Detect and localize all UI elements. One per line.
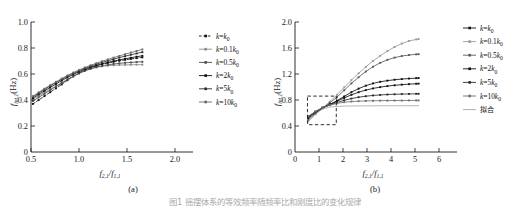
series-marker — [408, 83, 410, 85]
series-marker — [43, 88, 45, 90]
figure-caption-strip: 图1 摇摆体系的等效频率随频率比和刚度比的变化规律 — [0, 196, 530, 209]
series-marker — [415, 53, 417, 55]
panel-b-ytick-label: 2.0 — [282, 18, 292, 27]
series-marker — [95, 66, 97, 68]
series-marker — [90, 64, 92, 66]
series-marker — [118, 62, 120, 64]
panel-b-ytick-label: 1.2 — [282, 70, 292, 79]
series-marker — [365, 100, 367, 102]
legend-label: k=k0 — [480, 24, 494, 34]
legend-marker — [204, 48, 207, 51]
series-marker — [322, 107, 324, 109]
series-marker — [394, 79, 396, 81]
chart-panel-a: 0.51.01.52.000.20.40.60.81.0 k=k0k=0.1k0… — [0, 0, 265, 209]
series-marker — [358, 100, 360, 102]
series-marker — [124, 64, 126, 66]
series-marker — [136, 56, 138, 58]
series-marker — [343, 97, 345, 99]
legend-label: k=5k0 — [216, 84, 233, 94]
series-marker — [401, 93, 403, 95]
legend-label: k=2k0 — [480, 64, 497, 74]
panel-b-xtick-label: 4 — [389, 155, 394, 164]
series-marker — [84, 67, 86, 69]
series-marker — [358, 96, 360, 98]
series-marker — [118, 64, 120, 66]
series-marker — [118, 57, 120, 59]
legend-marker — [204, 35, 207, 38]
legend-label: k=0.1k0 — [480, 37, 503, 47]
panel-a-xtick-label: 1.0 — [74, 155, 84, 164]
series-marker — [358, 91, 360, 93]
panel-b-xtick-label: 5 — [413, 155, 417, 164]
panel-a-xtick-label: 2.0 — [170, 155, 180, 164]
series-line — [308, 94, 418, 117]
panel-a-ytick-label: 0.8 — [18, 44, 28, 53]
series-marker — [394, 46, 396, 48]
series-marker — [418, 83, 420, 85]
series-marker — [141, 61, 143, 63]
series-marker — [130, 54, 132, 56]
series-marker — [350, 91, 352, 93]
series-marker — [95, 62, 97, 64]
series-marker — [343, 99, 345, 101]
series-marker — [365, 71, 367, 73]
series-marker — [350, 98, 352, 100]
legend-marker — [468, 81, 471, 84]
series-marker — [365, 95, 367, 97]
legend-label: k=10k0 — [216, 98, 237, 108]
series-marker — [408, 100, 410, 102]
series-marker — [55, 81, 57, 83]
series-marker — [372, 60, 374, 62]
series-marker — [401, 78, 403, 80]
series-marker — [49, 91, 51, 93]
series-marker — [418, 100, 420, 102]
series-line — [308, 106, 418, 122]
series-marker — [130, 64, 132, 66]
series-marker — [379, 86, 381, 88]
series-marker — [72, 75, 74, 77]
legend-marker — [204, 88, 207, 91]
panel-a-yaxis-title: fint,1(Hz) — [8, 78, 19, 106]
series-marker — [136, 53, 138, 55]
series-marker — [418, 77, 420, 79]
panel-a-curves — [32, 48, 143, 104]
legend-marker — [468, 40, 471, 43]
series-marker — [38, 96, 40, 98]
panel-a-label: (a) — [128, 184, 138, 194]
series-marker — [418, 53, 420, 55]
series-marker — [415, 83, 417, 85]
series-marker — [415, 93, 417, 95]
series-marker — [49, 84, 51, 86]
series-marker — [124, 62, 126, 64]
series-marker — [130, 61, 132, 63]
series-marker — [408, 93, 410, 95]
series-marker — [61, 82, 63, 84]
series-marker — [401, 84, 403, 86]
series-marker — [343, 86, 345, 88]
series-marker — [386, 85, 388, 87]
panel-b-yaxis-title: fint,1(Hz) — [272, 78, 283, 106]
legend-marker — [468, 27, 471, 30]
series-marker — [32, 95, 34, 97]
series-marker — [49, 89, 51, 91]
series-marker — [350, 94, 352, 96]
series-marker — [101, 65, 103, 67]
series-marker — [418, 93, 420, 95]
panel-b-svg: 012345600.40.81.21.62.0 k=k0k=0.1k0k=0.5… — [265, 0, 530, 209]
panel-b-ytick-label: 0 — [288, 148, 292, 157]
series-marker — [343, 101, 345, 103]
series-marker — [101, 60, 103, 62]
legend-label: k=0.1k0 — [216, 45, 239, 55]
legend-marker — [468, 54, 471, 57]
panel-b-label: (b) — [370, 184, 380, 194]
series-marker — [141, 64, 143, 66]
panel-a-svg: 0.51.01.52.000.20.40.60.81.0 k=k0k=0.1k0… — [0, 0, 265, 209]
series-marker — [415, 77, 417, 79]
series-marker — [78, 69, 80, 71]
panel-a-ytick-label: 0 — [24, 148, 28, 157]
series-marker — [365, 66, 367, 68]
series-marker — [55, 86, 57, 88]
panel-b-xtick-label: 2 — [341, 155, 345, 164]
series-marker — [141, 55, 143, 57]
panel-b-axes: 012345600.40.81.21.62.0 — [282, 18, 457, 164]
